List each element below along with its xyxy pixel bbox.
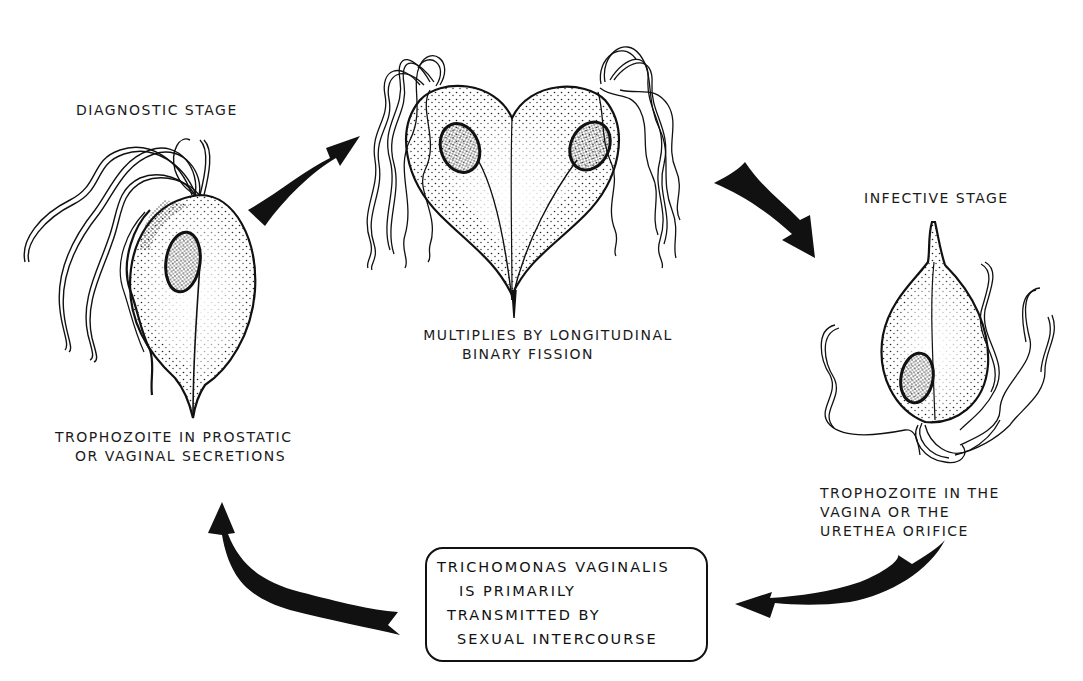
caption-line: URETHEA ORIFICE [820, 522, 1000, 541]
diagnostic-trophozoite-illustration [24, 139, 255, 418]
transmission-info-box: TRICHOMONAS VAGINALIS IS PRIMARILY TRANS… [425, 547, 708, 662]
diagnostic-stage-caption: TROPHOZOITE IN PROSTATIC OR VAGINAL SECR… [55, 428, 292, 466]
infective-stage-title: INFECTIVE STAGE [864, 189, 1009, 208]
diagnostic-stage-title: DIAGNOSTIC STAGE [76, 101, 238, 120]
caption-line: TROPHOZOITE IN PROSTATIC [55, 428, 292, 447]
info-line: SEXUAL INTERCOURSE [457, 631, 658, 647]
arrow-infective-to-transmission [735, 540, 945, 618]
caption-line: TROPHOZOITE IN THE [820, 484, 1000, 503]
arrow-diagnostic-to-fission [248, 136, 360, 226]
infective-stage-caption: TROPHOZOITE IN THE VAGINA OR THE URETHEA… [820, 484, 1000, 541]
caption-line: BINARY FISSION [388, 345, 708, 364]
arrow-transmission-to-diagnostic [208, 502, 400, 635]
binary-fission-caption: MULTIPLIES BY LONGITUDINAL BINARY FISSIO… [388, 326, 708, 364]
binary-fission-illustration [367, 47, 680, 318]
info-line: IS PRIMARILY [459, 583, 576, 599]
caption-line: OR VAGINAL SECRETIONS [55, 447, 292, 466]
info-line: TRICHOMONAS VAGINALIS [437, 559, 670, 575]
caption-line: VAGINA OR THE [820, 503, 1000, 522]
caption-line: MULTIPLIES BY LONGITUDINAL [388, 326, 708, 345]
info-line: TRANSMITTED BY [447, 607, 601, 623]
arrow-fission-to-infective [714, 162, 815, 258]
infective-trophozoite-illustration [821, 222, 1054, 463]
